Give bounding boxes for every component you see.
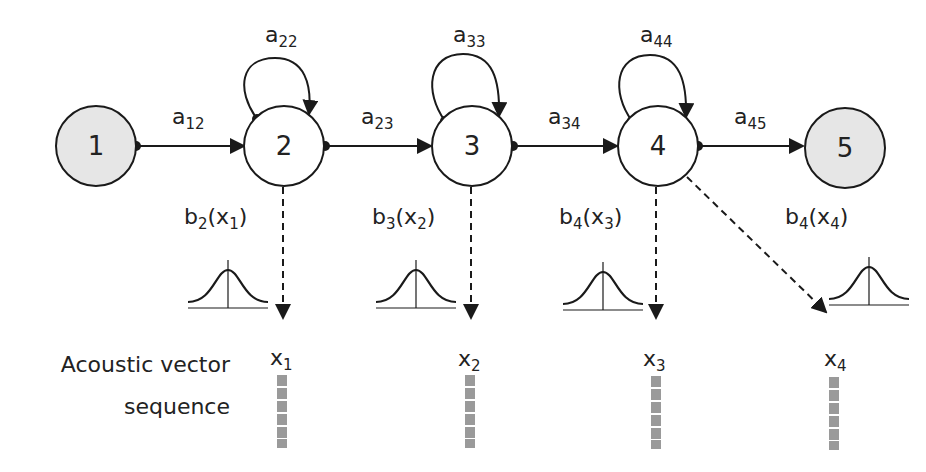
state-1: 1 [56,106,136,186]
emission-label-b4-x3: b4(x3) [559,204,622,233]
acoustic-vector-x1 [277,375,287,448]
transition-label-a12: a12 [172,104,205,133]
gaussian-icon-b2 [188,260,268,308]
observation-label-x4: x4 [824,346,847,375]
observation-label-x1: x1 [270,345,293,374]
acoustic-vector-x4 [829,377,839,450]
transition-label-a23: a23 [361,104,394,133]
transition-4-5 [693,141,803,151]
transition-2-3 [320,141,431,151]
state-3: 3 [432,106,512,186]
state-5-label: 5 [837,133,854,163]
acoustic-vector-x3 [651,376,661,449]
transition-label-a45: a45 [734,104,767,133]
emission-arrow-4-diag [687,177,826,312]
observation-label-x3: x3 [643,346,666,375]
emission-label-b4-x4: b4(x4) [785,204,848,233]
side-label-line1: Acoustic vector [61,352,231,377]
state-2: 2 [244,106,324,186]
state-4-label: 4 [650,131,667,161]
observation-label-x2: x2 [458,346,481,375]
hmm-diagram: 1 2 3 4 5 a12 a22 a23 a33 a34 a44 a45 b2… [0,0,926,472]
state-3-label: 3 [464,131,481,161]
state-2-label: 2 [276,131,293,161]
transition-label-a44: a44 [640,22,673,51]
state-4: 4 [618,106,698,186]
transition-3-4 [508,141,617,151]
gaussian-icon-b4-x4 [829,257,909,305]
transition-1-2 [131,141,244,151]
emission-label-b2-x1: b2(x1) [184,204,247,233]
acoustic-vector-x2 [465,375,475,448]
side-label-line2: sequence [124,394,230,419]
state-1-label: 1 [88,131,105,161]
transition-label-a33: a33 [453,22,486,51]
emission-label-b3-x2: b3(x2) [372,204,435,233]
gaussian-icon-b3 [376,260,456,308]
state-5: 5 [805,108,885,188]
transition-label-a22: a22 [265,22,298,51]
gaussian-icon-b4-x3 [563,262,643,310]
transition-label-a34: a34 [548,104,581,133]
